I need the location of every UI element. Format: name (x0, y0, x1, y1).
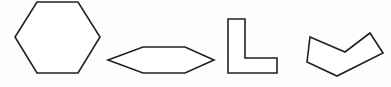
shape-hexagon (15, 2, 100, 73)
shapes-svg (0, 0, 391, 87)
shape-l-shape (228, 19, 277, 73)
shape-elongated-hexagon (108, 47, 214, 73)
shapes-canvas (0, 0, 391, 87)
shape-chevron (307, 33, 383, 76)
